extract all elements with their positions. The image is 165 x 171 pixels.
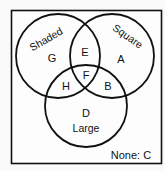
region-label-f: F [83, 69, 90, 81]
region-label-e: E [81, 46, 88, 58]
none-label: None: C [111, 149, 151, 161]
region-label-d: D [82, 107, 90, 119]
region-label-h: H [62, 80, 70, 92]
region-label-a: A [117, 53, 125, 65]
set-label-large: Large [73, 122, 100, 134]
region-label-g: G [48, 52, 57, 64]
venn-diagram: Shaded Square G E A F H B D Large None: … [0, 0, 165, 171]
region-label-b: B [104, 80, 111, 92]
